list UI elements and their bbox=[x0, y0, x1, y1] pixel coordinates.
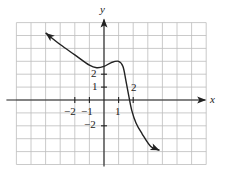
grid bbox=[16, 23, 206, 165]
x-tick-label-1: 1 bbox=[115, 106, 121, 117]
x-axis-label: x bbox=[210, 94, 215, 105]
curve-annotation-2: 2 bbox=[131, 82, 137, 93]
function-graph bbox=[0, 0, 227, 169]
y-tick-label-neg2: −2 bbox=[84, 119, 96, 130]
y-axis-label: y bbox=[100, 4, 105, 15]
y-tick-label-2: 2 bbox=[91, 68, 97, 79]
x-tick-label-neg2: −2 bbox=[64, 106, 76, 117]
y-tick-label-1: 1 bbox=[92, 81, 98, 92]
axes bbox=[6, 19, 206, 167]
x-tick-label-neg1: −1 bbox=[81, 106, 93, 117]
function-curve bbox=[46, 33, 160, 150]
